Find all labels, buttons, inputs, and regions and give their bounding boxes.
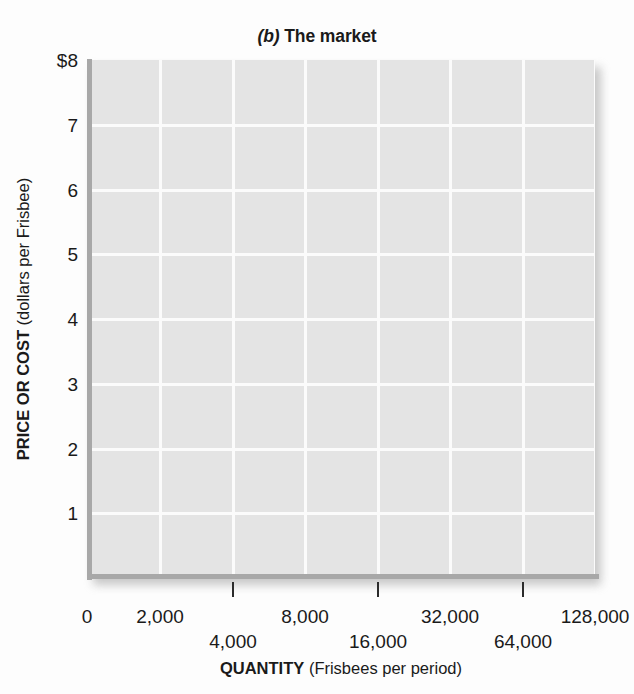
y-axis-title-strong: PRICE OR COST — [14, 330, 32, 460]
y-gridline — [87, 512, 595, 515]
x-axis-title-strong: QUANTITY — [220, 659, 304, 677]
plot-area-wrapper — [87, 60, 595, 578]
x-tick-mark — [232, 582, 234, 597]
y-axis-title: PRICE OR COST (dollars per Frisbee) — [14, 60, 40, 578]
y-gridline — [87, 253, 595, 256]
x-tick-label: 2,000 — [136, 607, 184, 626]
y-gridline — [87, 189, 595, 192]
x-tick-label: 8,000 — [281, 607, 329, 626]
y-gridline — [87, 318, 595, 321]
x-axis-line — [87, 574, 599, 579]
x-axis-title-rest: (Frisbees per period) — [309, 659, 462, 677]
chart-title-label: (b) — [257, 26, 279, 46]
y-gridline — [87, 124, 595, 127]
plot-area — [87, 60, 595, 578]
y-gridline — [87, 448, 595, 451]
y-gridline — [87, 383, 595, 386]
x-tick-label: 128,000 — [561, 607, 630, 626]
x-tick-label: 32,000 — [421, 607, 479, 626]
chart-title-text: The market — [284, 26, 376, 46]
x-tick-label: 16,000 — [349, 632, 407, 651]
x-tick-label: 0 — [82, 607, 93, 626]
x-tick-label: 4,000 — [209, 632, 257, 651]
chart-title: (b) The market — [0, 26, 634, 47]
y-axis-line — [87, 59, 92, 580]
x-tick-mark — [377, 582, 379, 597]
x-tick-mark — [522, 582, 524, 597]
x-axis-title: QUANTITY (Frisbees per period) — [87, 659, 595, 678]
x-tick-label: 64,000 — [494, 632, 552, 651]
y-axis-title-rest: (dollars per Frisbee) — [14, 178, 32, 326]
chart-figure: (b) The market $8765432102,0004,0008,000… — [0, 0, 634, 694]
